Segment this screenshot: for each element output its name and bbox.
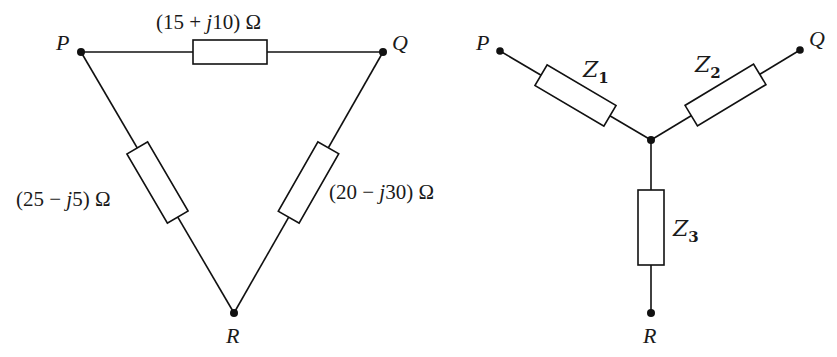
node-star-r [647,309,655,317]
label-star-r: R [642,323,657,348]
impedance-label-pq: (15 + j10) Ω [156,10,261,34]
resistor-z3 [638,190,664,265]
delta-network: P Q R (15 + j10) Ω (25 − j5) Ω (20 − j30… [16,10,434,348]
impedance-label-qr: (20 − j30) Ω [329,180,434,204]
label-delta-r: R [225,323,240,348]
label-star-p: P [475,30,489,55]
node-star-q [796,46,804,54]
node-delta-p [77,48,85,56]
impedance-label-pr: (25 − j5) Ω [16,187,111,211]
label-delta-q: Q [392,30,408,55]
node-delta-r [230,309,238,317]
node-star-p [496,47,504,55]
impedance-label-z3: Z3 [672,216,699,246]
label-delta-p: P [55,30,69,55]
star-network: P Q R Z1 Z2 Z3 [475,26,825,348]
node-star-centre [647,136,655,144]
node-delta-q [379,48,387,56]
circuit-figure: P Q R (15 + j10) Ω (25 − j5) Ω (20 − j30… [0,0,837,357]
impedance-label-z2: Z2 [694,52,721,82]
impedance-label-z1: Z1 [582,57,609,87]
resistor-delta-pq [193,40,267,64]
resistor-delta-pr [127,142,188,223]
label-star-q: Q [809,26,825,51]
